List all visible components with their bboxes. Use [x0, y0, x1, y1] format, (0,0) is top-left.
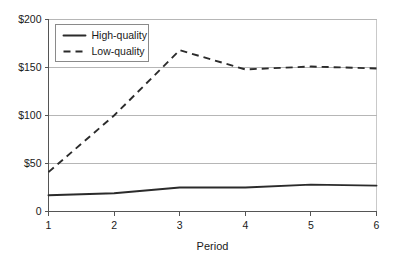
y-tick-label-100: $100: [18, 109, 42, 121]
y-tick-label-150: $150: [18, 61, 42, 73]
x-tick-label-6: 6: [374, 219, 380, 231]
x-tick-label-3: 3: [177, 219, 183, 231]
x-tick-label-4: 4: [242, 219, 248, 231]
legend-label-1: Low-quality: [92, 45, 146, 57]
chart-canvas: 0$50$100$150$200123456PeriodHigh-quality…: [0, 0, 414, 261]
legend-label-0: High-quality: [92, 29, 148, 41]
x-tick-label-2: 2: [111, 219, 117, 231]
x-axis-title: Period: [197, 240, 229, 252]
y-tick-label-50: $50: [24, 157, 42, 169]
series-line-low-quality: [49, 50, 377, 172]
y-tick-label-0: 0: [36, 205, 42, 217]
x-tick-label-1: 1: [46, 219, 52, 231]
series-line-high-quality: [49, 185, 377, 196]
line-chart: 0$50$100$150$200123456PeriodHigh-quality…: [0, 0, 414, 261]
y-tick-label-200: $200: [18, 13, 42, 25]
x-tick-label-5: 5: [308, 219, 314, 231]
